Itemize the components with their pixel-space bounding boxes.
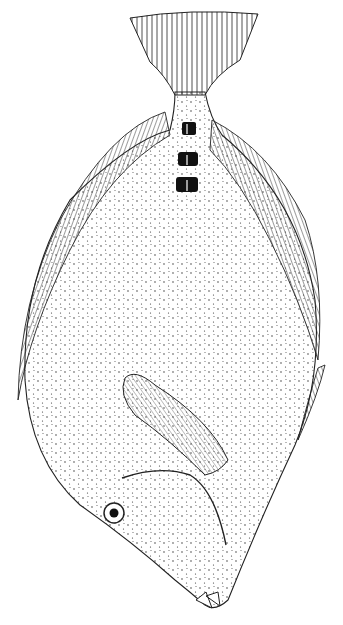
fish-illustration	[0, 0, 343, 625]
eye-icon	[104, 503, 124, 523]
caudal-fin	[130, 12, 258, 95]
